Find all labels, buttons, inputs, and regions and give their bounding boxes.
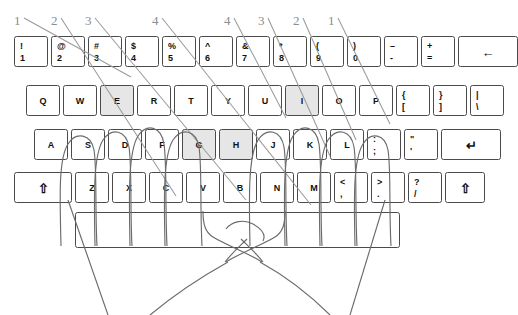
key-backslash-lower-label: \ xyxy=(476,103,479,112)
key-p[interactable]: P xyxy=(359,85,393,116)
key-t[interactable]: T xyxy=(174,85,208,116)
key-g[interactable]: G xyxy=(182,129,216,160)
key-semicolon-upper-label: : xyxy=(373,135,376,144)
key-backspace[interactable]: ← xyxy=(458,36,518,67)
key-s[interactable]: S xyxy=(71,129,105,160)
key-2-lower-label: 2 xyxy=(57,54,62,63)
key-n-label: N xyxy=(261,183,293,192)
key-4-lower-label: 4 xyxy=(131,54,136,63)
key-f[interactable]: F xyxy=(145,129,179,160)
key-7[interactable]: &7 xyxy=(236,36,270,67)
key-b[interactable]: B xyxy=(223,172,257,203)
key-i-label: I xyxy=(286,96,318,105)
finger-number-left-4: 4 xyxy=(152,14,159,27)
key-6[interactable]: ^6 xyxy=(199,36,233,67)
key-slash-upper-label: ? xyxy=(414,178,420,187)
key-period-lower-label: . xyxy=(377,190,380,199)
key-n[interactable]: N xyxy=(260,172,294,203)
key-quote[interactable]: "' xyxy=(404,129,438,160)
key-8-upper-label: * xyxy=(279,42,283,51)
finger-number-right-3: 3 xyxy=(258,14,265,27)
key-d[interactable]: D xyxy=(108,129,142,160)
key-5[interactable]: %5 xyxy=(162,36,196,67)
key-equals-upper-label: + xyxy=(427,42,432,51)
key-comma[interactable]: <, xyxy=(334,172,368,203)
key-1[interactable]: !1 xyxy=(14,36,48,67)
key-a[interactable]: A xyxy=(34,129,68,160)
key-i[interactable]: I xyxy=(285,85,319,116)
key-p-label: P xyxy=(360,96,392,105)
key-l-label: L xyxy=(331,140,363,149)
key-1-lower-label: 1 xyxy=(20,54,25,63)
key-2[interactable]: @2 xyxy=(51,36,85,67)
key-3[interactable]: #3 xyxy=(88,36,122,67)
key-5-lower-label: 5 xyxy=(168,54,173,63)
key-backslash[interactable]: |\ xyxy=(470,85,504,116)
key-equals[interactable]: += xyxy=(421,36,455,67)
key-semicolon-lower-label: ; xyxy=(373,147,376,156)
key-h-label: H xyxy=(220,140,252,149)
key-8[interactable]: *8 xyxy=(273,36,307,67)
key-e[interactable]: E xyxy=(100,85,134,116)
key-0[interactable]: )0 xyxy=(347,36,381,67)
key-q[interactable]: Q xyxy=(26,85,60,116)
key-k[interactable]: K xyxy=(293,129,327,160)
finger-number-right-1: 1 xyxy=(328,14,335,27)
key-bracket-right-lower-label: ] xyxy=(439,103,442,112)
key-u[interactable]: U xyxy=(248,85,282,116)
key-slash[interactable]: ?/ xyxy=(408,172,442,203)
key-minus[interactable]: –- xyxy=(384,36,418,67)
key-c-label: C xyxy=(150,183,182,192)
key-shift-left-label: ⇧ xyxy=(15,181,71,194)
key-y[interactable]: Y xyxy=(211,85,245,116)
key-shift-right[interactable]: ⇧ xyxy=(445,172,485,203)
key-r-label: R xyxy=(138,96,170,105)
key-space[interactable] xyxy=(75,212,400,248)
key-w[interactable]: W xyxy=(63,85,97,116)
key-semicolon[interactable]: :; xyxy=(367,129,401,160)
key-h[interactable]: H xyxy=(219,129,253,160)
key-x[interactable]: X xyxy=(112,172,146,203)
key-bracket-left[interactable]: {[ xyxy=(396,85,430,116)
key-v-label: V xyxy=(187,183,219,192)
key-o-label: O xyxy=(323,96,355,105)
key-r[interactable]: R xyxy=(137,85,171,116)
key-m[interactable]: M xyxy=(297,172,331,203)
key-0-upper-label: ) xyxy=(353,42,356,51)
key-z-label: Z xyxy=(76,183,108,192)
key-o[interactable]: O xyxy=(322,85,356,116)
finger-number-left-3: 3 xyxy=(85,14,92,27)
key-w-label: W xyxy=(64,96,96,105)
key-bracket-left-lower-label: [ xyxy=(402,103,405,112)
key-l[interactable]: L xyxy=(330,129,364,160)
key-period[interactable]: >. xyxy=(371,172,405,203)
key-z[interactable]: Z xyxy=(75,172,109,203)
key-c[interactable]: C xyxy=(149,172,183,203)
key-v[interactable]: V xyxy=(186,172,220,203)
key-backspace-label: ← xyxy=(459,45,517,58)
key-comma-lower-label: , xyxy=(340,190,343,199)
key-shift-left[interactable]: ⇧ xyxy=(14,172,72,203)
key-quote-lower-label: ' xyxy=(410,147,412,156)
key-9-upper-label: ( xyxy=(316,42,319,51)
forearm-left-inner xyxy=(150,262,228,315)
key-backslash-upper-label: | xyxy=(476,91,479,100)
key-7-upper-label: & xyxy=(242,42,249,51)
key-slash-lower-label: / xyxy=(414,190,417,199)
key-bracket-right[interactable]: }] xyxy=(433,85,467,116)
key-shift-right-label: ⇧ xyxy=(446,181,484,194)
key-7-lower-label: 7 xyxy=(242,54,247,63)
key-a-label: A xyxy=(35,140,67,149)
finger-number-right-2: 2 xyxy=(293,14,300,27)
key-5-upper-label: % xyxy=(168,42,176,51)
key-j[interactable]: J xyxy=(256,129,290,160)
key-equals-lower-label: = xyxy=(427,54,432,63)
key-9[interactable]: (9 xyxy=(310,36,344,67)
finger-number-right-4: 4 xyxy=(224,14,231,27)
key-6-lower-label: 6 xyxy=(205,54,210,63)
forearm-right-inner xyxy=(260,262,330,315)
key-4[interactable]: $4 xyxy=(125,36,159,67)
key-m-label: M xyxy=(298,183,330,192)
key-enter[interactable]: ↵ xyxy=(441,129,501,160)
